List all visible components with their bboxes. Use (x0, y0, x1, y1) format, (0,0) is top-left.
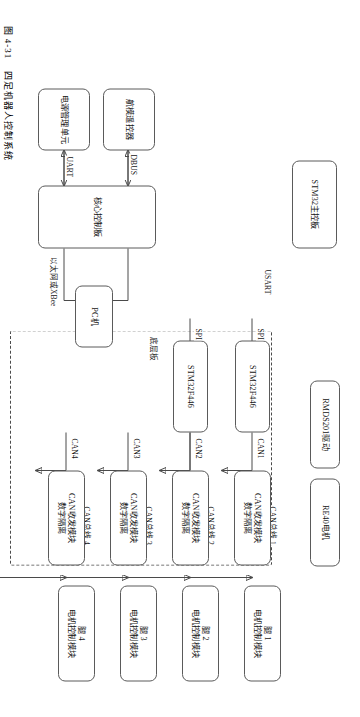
leg1-line2: 电机控制模块 (253, 609, 263, 658)
label-ethernet-xbee: 以太网或XBee (49, 255, 60, 307)
label-dbus: DBUS (129, 153, 138, 176)
block-stm32f446-2[interactable]: STM32F446 (173, 340, 208, 432)
ct4-line2: 数字隔离 (57, 493, 67, 543)
block-re40-motor[interactable]: RE40电机 (310, 478, 340, 566)
mcu1-label: STM32F446 (248, 365, 258, 408)
label-usart: USART (263, 268, 272, 295)
rc-label: 航模遥控器 (124, 99, 134, 140)
leg4-line1: 腿 4 (77, 609, 87, 658)
label-spi-2: SPI (194, 327, 203, 340)
block-core-control-board[interactable]: 核心控制板 (38, 185, 156, 248)
block-pc[interactable]: PC机 (75, 285, 113, 347)
block-power-management-unit[interactable]: 电源管理单元 (38, 88, 90, 150)
rmds-label: RMDS201驱动 (320, 398, 330, 450)
ct4-line1: CAN收发模块 (67, 493, 77, 543)
leg3-line1: 腿 3 (139, 609, 149, 658)
leg2-line1: 腿 2 (201, 609, 211, 658)
core-board-label: 核心控制板 (92, 196, 102, 237)
label-can1: CAN1 (256, 437, 265, 459)
block-leg4-motor-control[interactable]: 腿 4 电机控制模块 (58, 585, 95, 681)
block-can-transceiver-2[interactable]: CAN收发模块 数字隔离 (172, 470, 209, 565)
label-can2: CAN2 (194, 437, 203, 459)
re40-label: RE40电机 (320, 504, 330, 539)
ct3-line1: CAN收发模块 (129, 493, 139, 543)
leg3-line2: 电机控制模块 (129, 609, 139, 658)
block-rmds201-driver[interactable]: RMDS201驱动 (310, 380, 340, 468)
label-uart: UART (65, 155, 74, 178)
block-can-transceiver-4[interactable]: CAN收发模块 数字隔离 (48, 470, 85, 565)
block-leg3-motor-control[interactable]: 腿 3 电机控制模块 (120, 585, 157, 681)
leg2-line2: 电机控制模块 (191, 609, 201, 658)
leg4-line2: 电机控制模块 (67, 609, 77, 658)
figure-caption-text: 四足机器人控制系统 (2, 70, 15, 160)
block-rc-transmitter[interactable]: 航模遥控器 (103, 88, 155, 150)
ct2-line1: CAN收发模块 (191, 493, 201, 543)
ct1-line2: 数字隔离 (243, 493, 253, 543)
label-can3: CAN3 (132, 437, 141, 459)
figure-caption-number: 图 4-31 (2, 25, 15, 59)
block-can-transceiver-1[interactable]: CAN收发模块 数字隔离 (234, 470, 271, 565)
block-leg2-motor-control[interactable]: 腿 2 电机控制模块 (182, 585, 219, 681)
block-stm32f446-1[interactable]: STM32F446 (235, 340, 270, 432)
pc-label: PC机 (89, 307, 99, 325)
mcu2-label: STM32F446 (186, 365, 196, 408)
power-label: 电源管理单元 (59, 95, 69, 144)
label-can4: CAN4 (70, 437, 79, 459)
leg1-line1: 腿 1 (263, 609, 273, 658)
figure-canvas: 腿 1 电机控制模块 腿 2 电机控制模块 腿 3 电机控制模块 腿 4 电机控… (0, 0, 360, 717)
ct1-line1: CAN收发模块 (253, 493, 263, 543)
ct2-line2: 数字隔离 (181, 493, 191, 543)
ct3-line2: 数字隔离 (119, 493, 129, 543)
label-spi-1: SPI (256, 327, 265, 340)
block-can-transceiver-3[interactable]: CAN收发模块 数字隔离 (110, 470, 147, 565)
label-bottom-board: 底层板 (149, 335, 160, 361)
stm32-main-label: STM32主控板 (310, 179, 320, 229)
block-stm32-main-board[interactable]: STM32主控板 (292, 160, 337, 248)
block-leg1-motor-control[interactable]: 腿 1 电机控制模块 (244, 585, 281, 681)
